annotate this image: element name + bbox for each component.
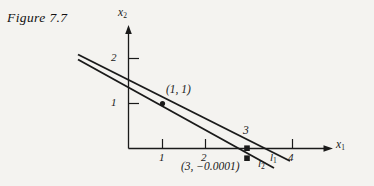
line-l1 [78,55,290,162]
x-axis-ticks [163,139,293,149]
y-axis-label: x2 [118,7,127,19]
line-l2 [78,60,274,169]
y-tick-label-1: 1 [111,97,117,108]
line-label-l1-subscript: 1 [273,156,277,165]
marker-point-1-1 [160,101,165,106]
y-tick-label-2: 2 [111,52,117,63]
x-axis-label-subscript: 1 [341,143,345,152]
marker-point-3-zero [244,145,250,151]
point-annotation-1-1: (1, 1) [166,84,191,96]
x-tick-label-4: 4 [288,152,294,163]
figure-caption: Figure 7.7 [7,11,68,25]
point-annotation-3: 3 [243,125,249,137]
y-axis-label-subscript: 2 [123,11,127,20]
point-annotation-3-negative: (3, −0.0001) [181,161,240,173]
line-label-l2: l2 [258,158,265,170]
marker-point-3-neg [244,155,250,161]
line-label-l2-subscript: 2 [261,162,265,171]
line-label-l1: l1 [270,152,277,164]
figure-container: Figure 7.7 x2 x1 2 1 1 2 4 (1, 1) 3 (3, … [0,0,374,186]
x-axis-label: x1 [336,139,345,151]
x-tick-label-1: 1 [159,152,165,163]
